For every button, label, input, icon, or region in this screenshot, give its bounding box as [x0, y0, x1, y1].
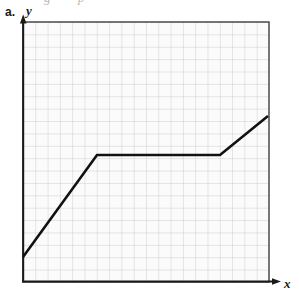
plot-area — [0, 0, 299, 302]
y-axis-arrow — [20, 15, 27, 24]
grid-background — [23, 22, 269, 282]
x-axis-arrow — [272, 278, 281, 285]
graph-figure: g p a. y x — [0, 0, 299, 302]
